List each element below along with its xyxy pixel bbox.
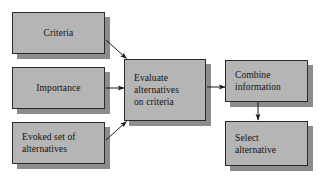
node-evoked-set-label: Evoked set of alternatives — [13, 131, 104, 155]
node-select-alternative[interactable]: Select alternative — [225, 121, 308, 166]
node-importance[interactable]: Importance — [12, 67, 105, 109]
node-criteria[interactable]: Criteria — [12, 12, 105, 54]
flow-diagram: Criteria Importance Evoked set of altern… — [0, 0, 322, 180]
node-importance-label: Importance — [13, 82, 104, 94]
node-combine-information[interactable]: Combine information — [225, 60, 308, 102]
node-criteria-label: Criteria — [13, 27, 104, 39]
node-combine-information-label: Combine information — [226, 69, 307, 93]
node-evoked-set[interactable]: Evoked set of alternatives — [12, 122, 105, 164]
node-evaluate-alternatives-label: Evaluate alternatives on criteria — [125, 72, 205, 108]
node-select-alternative-label: Select alternative — [226, 132, 307, 156]
node-evaluate-alternatives[interactable]: Evaluate alternatives on criteria — [124, 59, 206, 121]
